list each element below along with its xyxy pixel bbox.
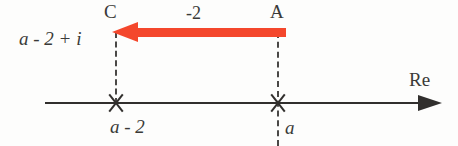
axis-label-a: a [285, 118, 295, 137]
axis-label-c: a - 2 [110, 117, 145, 136]
real-axis-label: Re [409, 70, 430, 89]
point-marker-a [267, 92, 289, 114]
complex-value-label-c: a - 2 + i [19, 29, 81, 48]
point-label-a: A [270, 2, 284, 21]
point-label-c: C [104, 2, 117, 21]
translation-arrow [112, 22, 286, 43]
translation-arrow-shaft [136, 28, 286, 37]
point-marker-c [105, 92, 127, 114]
real-axis-arrowhead-icon [418, 95, 442, 111]
real-axis-line [45, 102, 426, 104]
complex-plane-diagram: C A -2 a - 2 + i a - 2 a Re [0, 0, 458, 146]
translation-amount-label: -2 [186, 4, 201, 22]
translation-arrowhead-icon [112, 22, 138, 42]
dashed-guide-a [277, 32, 279, 146]
